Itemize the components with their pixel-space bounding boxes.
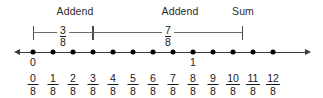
fraction-denominator: 8 bbox=[108, 86, 119, 96]
bracket-tick-right bbox=[242, 26, 243, 40]
fraction-numerator: 7 bbox=[165, 25, 171, 35]
fraction-numerator: 3 bbox=[60, 25, 66, 35]
fraction-numerator: 12 bbox=[266, 73, 280, 83]
addend-label-1: Addend bbox=[57, 5, 94, 17]
fraction-denominator: 8 bbox=[208, 86, 219, 96]
fraction-denominator: 8 bbox=[226, 86, 240, 96]
tick-fraction-label: 3 8 bbox=[88, 73, 99, 96]
tick-dot bbox=[271, 50, 276, 55]
number-line-axis bbox=[20, 52, 305, 53]
fraction-numerator: 6 bbox=[148, 73, 159, 83]
fraction-denominator: 8 bbox=[188, 86, 199, 96]
tick-fraction-label: 4 8 bbox=[108, 73, 119, 96]
sum-label: Sum bbox=[232, 5, 254, 17]
whole-number-label-1: 1 bbox=[190, 57, 196, 68]
fraction-numerator: 1 bbox=[48, 73, 59, 83]
tick-dot bbox=[71, 50, 76, 55]
fraction-numerator: 11 bbox=[246, 73, 260, 83]
tick-fraction-label: 8 8 bbox=[188, 73, 199, 96]
tick-fraction-label: 7 8 bbox=[168, 73, 179, 96]
bracket-tick-left bbox=[93, 26, 94, 40]
fraction-denominator: 8 bbox=[68, 86, 79, 96]
fraction-numerator: 0 bbox=[28, 73, 39, 83]
tick-fraction-label: 6 8 bbox=[148, 73, 159, 96]
tick-fraction-label: 11 8 bbox=[246, 73, 260, 96]
tick-fraction-label: 1 8 bbox=[48, 73, 59, 96]
tick-dot bbox=[91, 50, 96, 55]
fraction-numerator: 5 bbox=[128, 73, 139, 83]
axis-arrow-right-icon bbox=[305, 49, 311, 55]
number-line-figure: Addend Addend Sum 3 8 7 8 0 1 0 bbox=[0, 0, 323, 98]
fraction-denominator: 8 bbox=[148, 86, 159, 96]
fraction-numerator: 3 bbox=[88, 73, 99, 83]
fraction-denominator: 8 bbox=[266, 86, 280, 96]
fraction-denominator: 8 bbox=[246, 86, 260, 96]
fraction-denominator: 8 bbox=[60, 37, 66, 47]
tick-dot bbox=[31, 50, 36, 55]
axis-arrow-left-icon bbox=[14, 49, 20, 55]
fraction-denominator: 8 bbox=[128, 86, 139, 96]
tick-fraction-label: 12 8 bbox=[266, 73, 280, 96]
tick-dot bbox=[211, 50, 216, 55]
tick-fraction-label: 5 8 bbox=[128, 73, 139, 96]
addend-value-2: 7 8 bbox=[162, 25, 174, 47]
fraction-numerator: 2 bbox=[68, 73, 79, 83]
tick-dot bbox=[51, 50, 56, 55]
tick-dot bbox=[231, 50, 236, 55]
fraction-numerator: 8 bbox=[188, 73, 199, 83]
tick-dot bbox=[111, 50, 116, 55]
fraction-numerator: 10 bbox=[226, 73, 240, 83]
fraction-denominator: 8 bbox=[28, 86, 39, 96]
tick-dot bbox=[171, 50, 176, 55]
tick-fraction-label: 9 8 bbox=[208, 73, 219, 96]
whole-number-label-0: 0 bbox=[30, 57, 36, 68]
addend-label-2: Addend bbox=[162, 5, 199, 17]
fraction-denominator: 8 bbox=[88, 86, 99, 96]
tick-fraction-label: 10 8 bbox=[226, 73, 240, 96]
addend-value-1: 3 8 bbox=[57, 25, 69, 47]
tick-dot bbox=[251, 50, 256, 55]
tick-fraction-label: 2 8 bbox=[68, 73, 79, 96]
fraction-denominator: 8 bbox=[168, 86, 179, 96]
fraction-denominator: 8 bbox=[48, 86, 59, 96]
tick-dot bbox=[151, 50, 156, 55]
fraction-numerator: 7 bbox=[168, 73, 179, 83]
tick-fraction-label: 0 8 bbox=[28, 73, 39, 96]
tick-dot bbox=[131, 50, 136, 55]
fraction-denominator: 8 bbox=[165, 37, 171, 47]
tick-dot bbox=[191, 50, 196, 55]
bracket-tick-left bbox=[33, 26, 34, 40]
fraction-numerator: 4 bbox=[108, 73, 119, 83]
fraction-numerator: 9 bbox=[208, 73, 219, 83]
